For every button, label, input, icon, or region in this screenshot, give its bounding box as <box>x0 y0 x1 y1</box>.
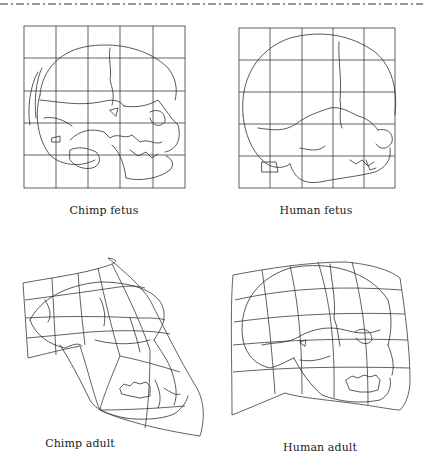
skull-transformation-figure: Chimp fetus <box>0 0 423 469</box>
human-adult-caption: Human adult <box>283 441 357 454</box>
human-adult-skull-outline <box>242 264 393 402</box>
human-adult-deformed-grid <box>231 262 410 415</box>
human-adult-skull-drawing <box>0 0 423 469</box>
